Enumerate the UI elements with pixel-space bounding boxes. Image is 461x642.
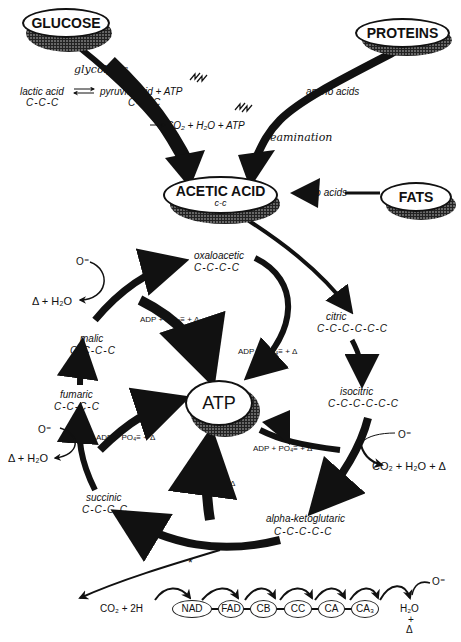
glycolysis-label: glycolysis [74,64,128,75]
oxygen-label-malic: O⁼ [76,256,89,267]
lactic-acid-label: lactic acid [20,86,64,97]
fats-label: FATS [399,189,434,205]
alpha-ketoglutaric-chain: C-C-C-C-C [274,526,332,537]
carrier-cc: CC [284,600,312,618]
lactic-acid-chain: C-C-C [26,97,59,108]
keto-acids-label: keto acids [302,187,347,198]
citric-label: citric [326,311,347,322]
electron-input-label: CO₂ + 2H [100,603,143,614]
pathway-arrows [0,0,461,642]
fats-box: FATS [380,182,452,212]
carrier-fad: FAD [218,600,244,618]
adp-label-isocitric: ADP + PO₄≡ + Δ [253,443,312,454]
fumaric-label: fumaric [60,389,93,400]
deamination-label: deamination [263,132,332,143]
amino-acids-label: amino acids [306,86,359,97]
oxaloacetic-label: oxaloacetic [194,250,244,261]
glucose-box: GLUCOSE [22,8,110,38]
succinic-chain: C-C-C-C [82,504,128,515]
asterisk-mark: * [188,558,193,569]
adp-label-malic: ADP + PO₄≡ + Δ [140,314,199,325]
acetic-acid-label: ACETIC ACID [165,183,276,199]
oxygen-label-chain: O⁼ [432,576,445,587]
proteins-label: PROTEINS [367,25,439,41]
fumaric-chain: C-C-C-C [54,401,100,412]
adp-label-fumaric: ADP + PO₄≡ + Δ [96,432,155,443]
carrier-nad: NAD [172,600,212,618]
succinic-label: succinic [86,492,122,503]
oxygen-label-fumaric: O⁼ [38,424,51,435]
atp-label: ATP [202,393,236,413]
glucose-label: GLUCOSE [31,15,100,31]
carrier-ca3: CA₃ [351,600,379,618]
atp-box: ATP [185,380,253,426]
citric-chain: C-C-C-C-C-C [317,323,388,334]
malic-chain: C-C-C-C [70,345,116,356]
adp-label-oxaloacetic: ADP + PO₄≡ + Δ [238,346,297,357]
heat-water-label-fumaric: Δ + H₂O [8,453,48,464]
proteins-box: PROTEINS [355,18,450,48]
co2-water-heat-label: CO₂ + H₂O + Δ [372,461,446,472]
pyruvic-acid-chain: C-C-C [128,97,161,108]
carrier-ca: CA [318,600,345,618]
oxygen-label-isocitric: O⁼ [398,429,411,440]
heat-water-label-malic: Δ + H₂O [32,296,72,307]
malic-label: malic [80,333,103,344]
carrier-cb: CB [250,600,277,618]
oxidation-products-label: CO₂ + H₂O + ATP [166,120,245,131]
heat-output-label: Δ [406,624,413,635]
alpha-ketoglutaric-label: alpha-ketoglutaric [266,513,345,524]
pyruvic-acid-label: pyruvic acid + ATP [100,86,183,97]
oxaloacetic-chain: C-C-C-C [194,262,240,273]
acetic-acid-box: ACETIC ACID c-c [163,176,278,214]
water-output-label: H₂O [400,603,419,614]
acetic-acid-chain: c-c [165,199,276,208]
isocitric-label: isocitric [340,386,373,397]
adp-label-alpha: ADP + PO₄≡ + Δ [176,478,235,489]
isocitric-chain: C-C-C-C-C-C [328,398,399,409]
